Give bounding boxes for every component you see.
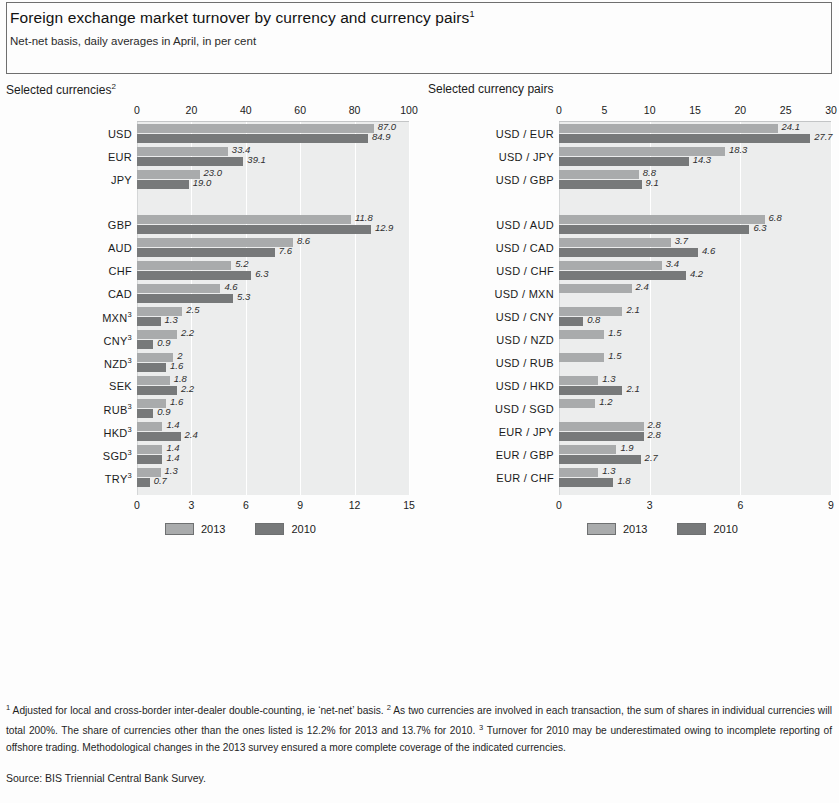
row-label-text: NZD — [104, 357, 128, 369]
bar-2010 — [137, 409, 153, 418]
row-label: EUR / CHF — [496, 472, 559, 484]
bottom-axis-tick: 3 — [647, 499, 653, 511]
bar-value-label-2013: 2.1 — [626, 304, 639, 315]
row-label: USD — [108, 128, 137, 140]
top-axis-tick: 20 — [734, 104, 746, 116]
bar-2013 — [137, 147, 228, 156]
panel-title-text: Selected currency pairs — [428, 82, 553, 96]
bottom-axis-tick: 6 — [243, 499, 249, 511]
bar-2010 — [559, 317, 583, 326]
panel-selected-currency-pairs: Selected currency pairs051015202530USD /… — [428, 82, 832, 657]
row-label-text: USD / HKD — [496, 380, 554, 392]
top-axis-tick: 15 — [689, 104, 701, 116]
bar-value-label-2013: 5.2 — [235, 258, 248, 269]
chart-row: USD / RUB1.5 — [559, 351, 831, 374]
row-label-text: USD / NZD — [496, 334, 554, 346]
bar-2013 — [559, 376, 598, 385]
bar-value-label-2010: 7.6 — [279, 245, 292, 256]
bar-2013 — [137, 261, 231, 270]
chart-row: GBP11.812.9 — [137, 213, 409, 236]
bar-value-label-2013: 1.9 — [620, 442, 633, 453]
row-label: USD / JPY — [499, 151, 559, 163]
row-label-footnote-marker: 3 — [128, 471, 132, 480]
bar-value-label-2010: 2.1 — [626, 383, 639, 394]
bottom-axis: 03691215 — [6, 499, 410, 516]
source-line: Source: BIS Triennial Central Bank Surve… — [6, 772, 206, 784]
row-label-text: SEK — [109, 380, 132, 392]
top-axis-tick: 40 — [240, 104, 252, 116]
header-top-rule — [6, 2, 832, 3]
bar-2010 — [559, 180, 642, 189]
legend-item-2010[interactable]: 2010 — [255, 523, 315, 535]
bar-2013 — [559, 353, 604, 362]
top-axis-tick: 20 — [186, 104, 198, 116]
row-label: CNY3 — [103, 333, 137, 347]
legend-label-2013: 2013 — [623, 523, 647, 535]
bar-2013 — [559, 468, 598, 477]
legend-item-2013[interactable]: 2013 — [587, 523, 647, 535]
chart-row: EUR / CHF1.31.8 — [559, 466, 831, 489]
row-label-text: EUR / GBP — [496, 449, 554, 461]
bar-value-label-2010: 6.3 — [753, 222, 766, 233]
bar-value-label-2013: 3.4 — [666, 258, 679, 269]
panel-title-text: Selected currencies — [6, 83, 111, 97]
chart-row: SEK1.82.2 — [137, 374, 409, 397]
bar-2013 — [137, 422, 162, 431]
figure-title-footnote-marker: 1 — [469, 9, 474, 19]
bar-2013 — [559, 124, 778, 133]
row-label: SEK — [109, 380, 137, 392]
bar-value-label-2010: 4.2 — [690, 268, 703, 279]
bar-2010 — [137, 432, 181, 441]
chart-row: USD / MXN2.4 — [559, 282, 831, 305]
bottom-axis-tick: 9 — [297, 499, 303, 511]
chart-row: TRY31.30.7 — [137, 466, 409, 489]
legend-item-2013[interactable]: 2013 — [165, 523, 225, 535]
legend-item-2010[interactable]: 2010 — [677, 523, 737, 535]
bar-2010 — [559, 386, 622, 395]
bar-value-label-2010: 9.1 — [646, 177, 659, 188]
row-label: GBP — [108, 219, 137, 231]
chart-row: USD / AUD6.86.3 — [559, 213, 831, 236]
bar-value-label-2010: 39.1 — [247, 154, 266, 165]
bar-value-label-2013: 3.7 — [675, 235, 688, 246]
chart-row: USD / HKD1.32.1 — [559, 374, 831, 397]
chart-row: USD / CHF3.44.2 — [559, 259, 831, 282]
row-label: MXN3 — [102, 310, 137, 324]
row-label: USD / EUR — [496, 128, 559, 140]
row-label: HKD3 — [103, 425, 137, 439]
row-label-text: SGD — [103, 449, 128, 461]
bar-value-label-2013: 4.6 — [224, 281, 237, 292]
bar-2013 — [559, 238, 671, 247]
plot-area: 020406080100USD87.084.9EUR33.439.1JPY23.… — [6, 104, 410, 540]
bar-value-label-2010: 2.2 — [181, 383, 194, 394]
panel-title-footnote-marker: 2 — [111, 82, 115, 91]
row-label-text: RUB — [103, 403, 127, 415]
row-label: CHF — [108, 265, 137, 277]
bar-2013 — [137, 284, 220, 293]
gridline — [831, 122, 832, 495]
bar-2013 — [559, 170, 639, 179]
row-label: USD / AUD — [496, 219, 559, 231]
row-label-footnote-marker: 3 — [128, 425, 132, 434]
bar-value-label-2010: 12.9 — [375, 222, 394, 233]
bar-value-label-2010: 1.3 — [165, 314, 178, 325]
legend-label-2010: 2010 — [291, 523, 315, 535]
row-label-text: GBP — [108, 219, 132, 231]
bottom-axis-tick: 3 — [188, 499, 194, 511]
row-label: EUR / GBP — [496, 449, 559, 461]
bar-value-label-2013: 2.5 — [186, 304, 199, 315]
bar-2010 — [137, 340, 153, 349]
legend-label-2013: 2013 — [201, 523, 225, 535]
row-label: AUD — [108, 242, 137, 254]
row-label-text: USD / RUB — [496, 357, 554, 369]
top-axis-tick: 25 — [780, 104, 792, 116]
chart-row: EUR / GBP1.92.7 — [559, 443, 831, 466]
chart-row: CHF5.26.3 — [137, 259, 409, 282]
bar-2013 — [559, 330, 604, 339]
plot-area: 051015202530USD / EUR24.127.7USD / JPY18… — [428, 104, 832, 540]
bar-value-label-2010: 4.6 — [702, 245, 715, 256]
bar-2013 — [559, 399, 595, 408]
row-label: TRY3 — [105, 471, 137, 485]
bar-value-label-2010: 27.7 — [814, 131, 833, 142]
chart-row: NZD321.6 — [137, 351, 409, 374]
